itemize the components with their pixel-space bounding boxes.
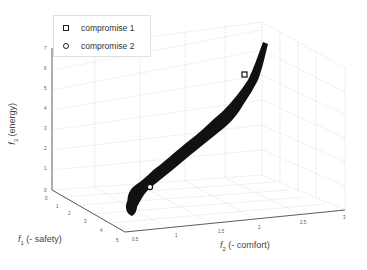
- svg-text:0: 0: [45, 196, 48, 201]
- svg-text:2.5: 2.5: [300, 220, 307, 225]
- svg-text:1: 1: [44, 166, 47, 171]
- svg-text:1: 1: [175, 233, 178, 238]
- y-ticks: 0.5 1 1.5 2 2.5 3: [132, 215, 346, 242]
- svg-text:0.5: 0.5: [132, 237, 139, 242]
- svg-text:2: 2: [44, 146, 47, 151]
- svg-text:5: 5: [116, 238, 119, 243]
- svg-text:3: 3: [84, 219, 87, 224]
- svg-text:3: 3: [44, 126, 47, 131]
- svg-text:2: 2: [258, 225, 261, 230]
- svg-text:7: 7: [44, 46, 47, 51]
- y-axis-line: [125, 210, 345, 232]
- x-axis-line: [52, 190, 125, 232]
- legend-item-compromise-2: compromise 2: [60, 40, 134, 52]
- svg-text:5: 5: [44, 86, 47, 91]
- z-axis-label: f3 (energy): [7, 103, 19, 145]
- z-ticks: 0 1 2 3 4 5 6 7: [44, 46, 47, 193]
- svg-text:1.5: 1.5: [218, 229, 225, 234]
- compromise-1-marker: [242, 72, 247, 77]
- square-marker-icon: [63, 25, 69, 31]
- svg-text:2: 2: [68, 211, 71, 216]
- circle-marker-icon: [63, 43, 69, 49]
- data-cloud: [126, 42, 268, 216]
- svg-text:4: 4: [44, 106, 47, 111]
- legend: compromise 1 compromise 2: [53, 15, 151, 57]
- compromise-2-marker: [147, 184, 152, 189]
- legend-item-compromise-1: compromise 1: [60, 22, 134, 34]
- x-axis-label: f1 (- safety): [18, 234, 62, 246]
- svg-text:0: 0: [44, 188, 47, 193]
- svg-text:3: 3: [343, 215, 346, 220]
- y-axis-label: f2 (- comfort): [220, 240, 270, 252]
- svg-text:1: 1: [56, 204, 59, 209]
- svg-text:4: 4: [100, 228, 103, 233]
- svg-text:6: 6: [44, 66, 47, 71]
